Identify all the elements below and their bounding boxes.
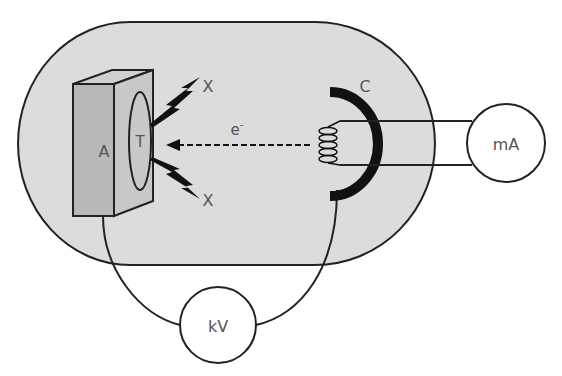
xray-bottom-label: X (203, 191, 214, 210)
anode-label: A (99, 142, 110, 161)
milliammeter-label: mA (493, 135, 520, 154)
xray-tube-diagram: mA kV A T C X X e- (0, 0, 562, 376)
xray-top-label: X (203, 77, 214, 96)
kilovoltmeter-label: kV (208, 317, 228, 336)
target-label: T (134, 133, 145, 151)
cathode-label: C (359, 77, 370, 96)
